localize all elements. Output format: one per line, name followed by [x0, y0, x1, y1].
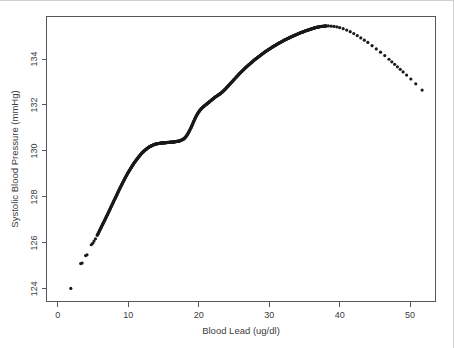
y-axis-ticks: 124126128130132134	[29, 52, 47, 297]
x-tick-label: 20	[194, 310, 204, 320]
data-point	[387, 58, 390, 61]
x-tick-label: 10	[123, 310, 133, 320]
data-point	[370, 44, 373, 47]
data-point	[69, 287, 72, 290]
data-point	[332, 25, 335, 28]
data-point	[342, 27, 345, 30]
chart-screenshot: 01020304050 124126128130132134 Blood Lea…	[0, 0, 454, 348]
data-point	[383, 54, 386, 57]
x-tick-label: 50	[405, 310, 415, 320]
scatter-plot: 01020304050 124126128130132134 Blood Lea…	[0, 0, 454, 348]
data-point	[335, 25, 338, 28]
data-point	[359, 36, 362, 39]
data-point	[363, 39, 366, 42]
y-tick-label: 128	[29, 189, 39, 204]
data-point	[366, 41, 369, 44]
x-tick-label: 40	[335, 310, 345, 320]
y-tick-label: 130	[29, 143, 39, 158]
data-point	[414, 82, 417, 85]
data-point	[345, 28, 348, 31]
y-tick-label: 126	[29, 235, 39, 250]
x-axis-title: Blood Lead (ug/dl)	[202, 325, 280, 336]
data-point	[330, 25, 333, 28]
x-tick-label: 30	[264, 310, 274, 320]
y-axis-title: Systolic Blood Pressure (mmHg)	[9, 90, 20, 227]
data-point	[393, 63, 396, 66]
data-point	[409, 77, 412, 80]
data-point	[390, 60, 393, 63]
x-axis-ticks: 01020304050	[55, 302, 415, 320]
data-point	[405, 74, 408, 77]
plot-frame	[47, 17, 436, 302]
data-point	[375, 47, 378, 50]
data-point	[349, 30, 352, 33]
data-point	[379, 51, 382, 54]
x-tick-label: 0	[55, 310, 60, 320]
data-point	[356, 34, 359, 37]
y-tick-label: 124	[29, 281, 39, 296]
y-tick-label: 134	[29, 52, 39, 67]
data-point	[80, 262, 83, 265]
data-point	[401, 70, 404, 73]
data-point	[338, 26, 341, 29]
data-point	[399, 68, 402, 71]
data-series-points	[69, 24, 423, 290]
data-point	[94, 237, 97, 240]
data-point	[352, 32, 355, 35]
data-point	[421, 88, 424, 91]
data-point	[324, 24, 327, 27]
data-point	[85, 253, 88, 256]
data-point	[396, 65, 399, 68]
y-tick-label: 132	[29, 97, 39, 112]
